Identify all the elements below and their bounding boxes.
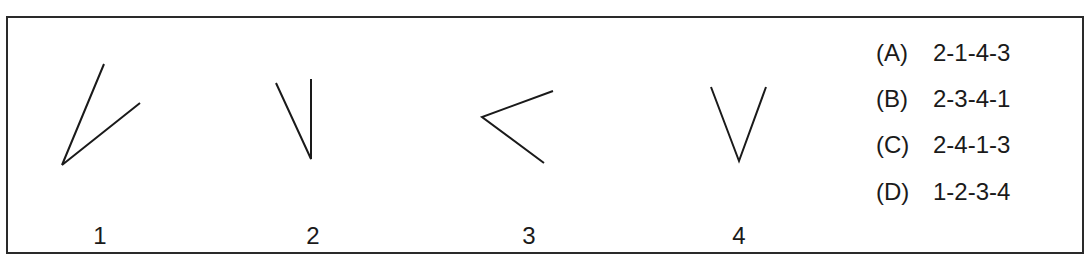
angle-figure-1 <box>62 64 140 165</box>
option-letter: (A) <box>876 39 933 67</box>
angle-figure-3 <box>482 91 553 163</box>
angle-figure-4 <box>711 87 766 161</box>
option-letter: (D) <box>876 178 933 206</box>
option-letter: (C) <box>876 131 933 159</box>
option-sequence: 2-4-1-3 <box>933 131 1010 158</box>
option-c[interactable]: (C)2-4-1-3 <box>876 131 1010 159</box>
angle-figure-2 <box>276 79 311 159</box>
option-sequence: 2-3-4-1 <box>933 85 1010 112</box>
option-letter: (B) <box>876 85 933 113</box>
figure-label-3: 3 <box>509 224 549 248</box>
figure-label-2: 2 <box>293 224 333 248</box>
figure-label-1: 1 <box>80 224 120 248</box>
option-d[interactable]: (D)1-2-3-4 <box>876 178 1010 206</box>
option-sequence: 2-1-4-3 <box>933 39 1010 66</box>
option-sequence: 1-2-3-4 <box>933 178 1010 205</box>
option-b[interactable]: (B)2-3-4-1 <box>876 85 1010 113</box>
figure-label-4: 4 <box>719 224 759 248</box>
option-a[interactable]: (A)2-1-4-3 <box>876 39 1010 67</box>
